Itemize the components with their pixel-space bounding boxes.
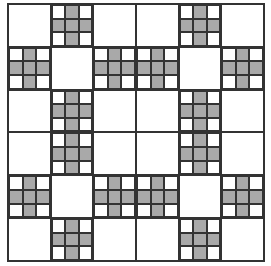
cross-cell xyxy=(179,218,222,261)
cross-square-empty xyxy=(180,118,194,132)
cross-cell xyxy=(51,90,94,133)
cross-cell xyxy=(179,90,222,133)
cross-square-filled xyxy=(151,190,165,204)
empty-cell xyxy=(136,4,179,47)
cross-square-filled xyxy=(79,19,93,33)
cross-square-filled xyxy=(180,233,194,247)
cross-square-filled xyxy=(193,233,207,247)
cross-cell xyxy=(179,132,222,175)
cross-square-filled xyxy=(249,61,263,75)
cross-square-filled xyxy=(222,61,236,75)
cross-square-empty xyxy=(207,161,221,175)
cross-square-filled xyxy=(52,147,66,161)
empty-cell xyxy=(51,47,94,90)
cross-square-filled xyxy=(193,147,207,161)
cross-square-empty xyxy=(79,118,93,132)
cross-square-filled xyxy=(36,190,50,204)
cross-square-empty xyxy=(222,204,236,218)
cross-square-empty xyxy=(121,75,135,89)
cross-square-filled xyxy=(180,104,194,118)
cross-square-filled xyxy=(193,246,207,260)
cross-square-empty xyxy=(52,161,66,175)
cross-square-filled xyxy=(65,104,79,118)
cross-square-empty xyxy=(52,32,66,46)
cross-square-filled xyxy=(236,48,250,62)
cross-square-empty xyxy=(249,176,263,190)
empty-cell xyxy=(93,132,136,175)
cross-square-filled xyxy=(65,161,79,175)
cross-square-filled xyxy=(65,246,79,260)
empty-cell xyxy=(179,47,222,90)
empty-cell xyxy=(51,175,94,218)
cross-square-filled xyxy=(65,118,79,132)
empty-cell xyxy=(221,90,264,133)
empty-cell xyxy=(221,4,264,47)
empty-cell xyxy=(136,132,179,175)
cross-square-filled xyxy=(36,61,50,75)
cross-cell xyxy=(136,175,179,218)
cross-square-empty xyxy=(180,219,194,233)
cross-square-filled xyxy=(121,61,135,75)
cross-square-filled xyxy=(193,219,207,233)
cross-square-empty xyxy=(94,48,108,62)
cross-square-filled xyxy=(164,190,178,204)
cross-square-filled xyxy=(137,61,151,75)
cross-square-empty xyxy=(9,204,23,218)
cross-square-filled xyxy=(121,190,135,204)
cross-square-empty xyxy=(180,133,194,147)
cross-square-filled xyxy=(180,19,194,33)
cross-square-empty xyxy=(137,75,151,89)
cross-square-empty xyxy=(52,133,66,147)
empty-cell xyxy=(8,4,51,47)
cross-square-filled xyxy=(193,133,207,147)
cross-square-filled xyxy=(207,233,221,247)
cross-square-empty xyxy=(249,204,263,218)
cross-square-empty xyxy=(121,176,135,190)
cross-square-filled xyxy=(193,104,207,118)
cross-square-empty xyxy=(79,133,93,147)
cross-square-empty xyxy=(164,176,178,190)
cross-square-empty xyxy=(222,176,236,190)
cross-square-filled xyxy=(52,104,66,118)
cross-square-filled xyxy=(23,61,37,75)
empty-cell xyxy=(8,90,51,133)
cross-cell xyxy=(179,4,222,47)
cross-square-empty xyxy=(121,204,135,218)
cross-square-filled xyxy=(236,204,250,218)
cross-square-filled xyxy=(151,204,165,218)
empty-cell xyxy=(136,90,179,133)
cross-square-filled xyxy=(94,61,108,75)
cross-square-filled xyxy=(79,147,93,161)
cross-square-empty xyxy=(36,48,50,62)
cross-square-empty xyxy=(180,5,194,19)
cross-square-filled xyxy=(193,32,207,46)
cross-square-filled xyxy=(236,190,250,204)
cross-square-empty xyxy=(249,75,263,89)
cross-square-empty xyxy=(36,204,50,218)
cross-square-empty xyxy=(52,246,66,260)
cross-square-empty xyxy=(79,161,93,175)
cross-square-filled xyxy=(108,75,122,89)
cross-square-empty xyxy=(52,118,66,132)
cross-square-empty xyxy=(137,48,151,62)
cross-square-filled xyxy=(52,233,66,247)
cross-square-filled xyxy=(164,61,178,75)
cross-square-filled xyxy=(65,19,79,33)
cross-square-filled xyxy=(23,190,37,204)
cross-square-empty xyxy=(249,48,263,62)
cross-square-empty xyxy=(164,204,178,218)
cross-square-empty xyxy=(9,176,23,190)
cross-square-empty xyxy=(79,246,93,260)
cross-cell xyxy=(51,132,94,175)
cross-square-empty xyxy=(79,91,93,105)
cross-cell xyxy=(51,4,94,47)
cross-cell xyxy=(51,218,94,261)
cross-square-filled xyxy=(9,61,23,75)
cross-square-filled xyxy=(79,104,93,118)
cross-square-filled xyxy=(193,5,207,19)
cross-square-empty xyxy=(137,176,151,190)
empty-cell xyxy=(8,218,51,261)
cross-square-filled xyxy=(94,190,108,204)
cross-square-filled xyxy=(108,48,122,62)
cross-square-filled xyxy=(108,204,122,218)
